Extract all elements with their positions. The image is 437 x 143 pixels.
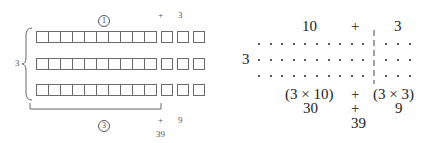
dot bbox=[362, 43, 364, 45]
dot bbox=[397, 43, 399, 45]
dot bbox=[328, 43, 330, 45]
bottom-circled-label: 3 bbox=[98, 114, 110, 132]
circled-number: 1 bbox=[98, 15, 110, 27]
unit-box bbox=[177, 58, 189, 70]
dot bbox=[304, 75, 306, 77]
total-value: 39 bbox=[156, 129, 165, 139]
bottom-plus: + bbox=[158, 115, 163, 125]
unit-box bbox=[144, 84, 157, 96]
row-count-label: 3 bbox=[242, 51, 250, 68]
bottom-right-value: 9 bbox=[178, 115, 183, 125]
dot bbox=[362, 59, 364, 61]
unit-box bbox=[193, 31, 205, 43]
dot bbox=[316, 43, 318, 45]
dot bbox=[293, 59, 295, 61]
dot bbox=[258, 75, 260, 77]
dot bbox=[304, 43, 306, 45]
dot bbox=[293, 75, 295, 77]
product-right: (3 × 3) bbox=[373, 86, 414, 103]
dot bbox=[339, 75, 341, 77]
unit-box bbox=[177, 31, 189, 43]
dot bbox=[270, 75, 272, 77]
top-right-value: 3 bbox=[178, 10, 183, 20]
dot bbox=[397, 75, 399, 77]
top-right-value: 3 bbox=[394, 18, 402, 35]
dot bbox=[409, 43, 411, 45]
unit-box bbox=[161, 84, 173, 96]
unit-box bbox=[193, 84, 205, 96]
dot bbox=[351, 43, 353, 45]
dot bbox=[385, 75, 387, 77]
unit-box bbox=[161, 31, 173, 43]
dot bbox=[258, 43, 260, 45]
unit-box bbox=[144, 31, 157, 43]
partial-right: 9 bbox=[395, 100, 403, 117]
dot bbox=[281, 59, 283, 61]
dot bbox=[270, 43, 272, 45]
dot bbox=[409, 75, 411, 77]
divider-dashed-line bbox=[372, 30, 376, 84]
dot bbox=[316, 75, 318, 77]
dot bbox=[328, 59, 330, 61]
dot bbox=[281, 43, 283, 45]
unit-box bbox=[177, 84, 189, 96]
top-plus: + bbox=[351, 18, 359, 35]
left-brace-icon bbox=[20, 27, 36, 101]
partial-left: 30 bbox=[303, 100, 318, 117]
dot bbox=[328, 75, 330, 77]
top-plus: + bbox=[158, 10, 163, 20]
dot bbox=[339, 43, 341, 45]
row-count-label: 3 bbox=[15, 58, 20, 68]
dot bbox=[397, 59, 399, 61]
top-left-value: 10 bbox=[302, 18, 317, 35]
bottom-bracket-icon bbox=[28, 101, 164, 111]
dot bbox=[339, 59, 341, 61]
unit-box bbox=[193, 58, 205, 70]
dot bbox=[351, 75, 353, 77]
dot bbox=[258, 59, 260, 61]
dot bbox=[281, 75, 283, 77]
unit-box bbox=[161, 58, 173, 70]
dot bbox=[293, 43, 295, 45]
dot bbox=[362, 75, 364, 77]
dot bbox=[385, 43, 387, 45]
dot bbox=[304, 59, 306, 61]
unit-box bbox=[144, 58, 157, 70]
total-value: 39 bbox=[351, 115, 366, 132]
circled-number: 3 bbox=[98, 120, 110, 132]
dot bbox=[316, 59, 318, 61]
dot bbox=[409, 59, 411, 61]
dot bbox=[385, 59, 387, 61]
dot bbox=[270, 59, 272, 61]
dot bbox=[351, 59, 353, 61]
top-circled-label: 1 bbox=[98, 9, 110, 27]
